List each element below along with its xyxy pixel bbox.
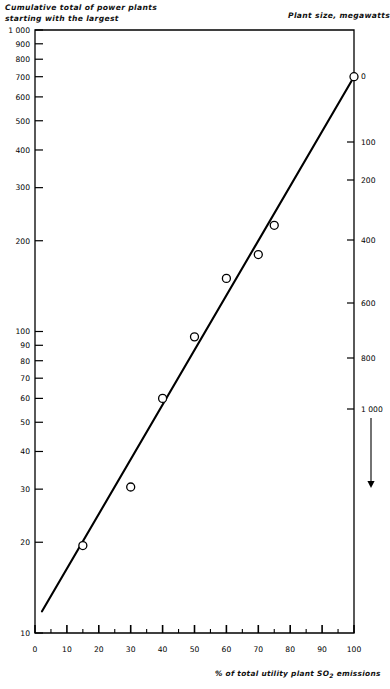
y-tick-label: 400	[16, 146, 31, 155]
y-tick-label: 90	[20, 341, 30, 350]
data-point	[79, 542, 87, 550]
trend-line	[42, 77, 354, 612]
y2-tick-label: 200	[361, 176, 376, 185]
x-tick-label: 30	[126, 645, 136, 654]
x-axis-ticks: 0102030405060708090100	[33, 625, 362, 654]
y-tick-label: 70	[20, 374, 30, 383]
y-tick-label: 900	[16, 40, 31, 49]
y-tick-label: 1 000	[8, 26, 30, 35]
y-tick-label: 20	[20, 538, 30, 547]
y-tick-label: 800	[16, 55, 31, 64]
x-tick-label: 60	[222, 645, 232, 654]
y-tick-label: 10	[20, 629, 30, 638]
y2-tick-label: 0	[361, 72, 366, 81]
plant-size-direction-arrow	[367, 418, 374, 488]
y-tick-label: 80	[20, 357, 30, 366]
x-tick-label: 0	[33, 645, 38, 654]
x-tick-label: 40	[158, 645, 168, 654]
y2-axis-ticks: 01002004006008001 000	[347, 72, 383, 414]
y2-tick-label: 100	[361, 138, 376, 147]
y-tick-label: 300	[16, 183, 31, 192]
y-tick-label: 30	[20, 485, 30, 494]
y-tick-label: 200	[16, 237, 31, 246]
y-tick-label: 700	[16, 73, 31, 82]
y2-tick-label: 1 000	[361, 405, 383, 414]
y-tick-label: 100	[16, 327, 31, 336]
y2-tick-label: 800	[361, 354, 376, 363]
y-tick-label: 40	[20, 447, 30, 456]
x-tick-label: 100	[347, 645, 362, 654]
data-point	[270, 221, 278, 229]
y-tick-label: 600	[16, 93, 31, 102]
x-tick-label: 50	[190, 645, 200, 654]
y-tick-label: 50	[20, 418, 30, 427]
x-tick-label: 10	[62, 645, 72, 654]
y-tick-label: 60	[20, 394, 30, 403]
x-tick-label: 80	[285, 645, 295, 654]
data-point	[159, 394, 167, 402]
data-point	[350, 73, 358, 81]
x-tick-label: 20	[94, 645, 104, 654]
y-tick-label: 500	[16, 117, 31, 126]
data-point	[127, 483, 135, 491]
y2-tick-label: 600	[361, 299, 376, 308]
y2-tick-label: 400	[361, 236, 376, 245]
data-point	[191, 333, 199, 341]
x-tick-label: 70	[253, 645, 263, 654]
data-point	[254, 251, 262, 259]
x-tick-label: 90	[317, 645, 327, 654]
data-point	[222, 274, 230, 282]
y-axis-ticks: 1020304050607080901002003004005006007008…	[8, 26, 43, 638]
